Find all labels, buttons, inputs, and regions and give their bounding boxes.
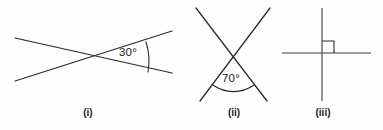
figure-i-angle-label: 30° — [119, 46, 137, 58]
figure-ii-line-down-right — [196, 8, 267, 101]
figure-i-group: 30° (i) — [15, 31, 172, 118]
figure-ii-caption: (ii) — [228, 107, 240, 118]
figure-i-caption: (i) — [83, 107, 92, 118]
geometry-figure-sheet: 30° (i) 70° (ii) (iii) — [0, 0, 383, 130]
figures-canvas: 30° (i) 70° (ii) (iii) — [0, 0, 383, 130]
figure-ii-angle-arc-icon — [213, 85, 254, 92]
figure-ii-angle-label: 70° — [222, 72, 240, 84]
figure-ii-group: 70° (ii) — [196, 8, 270, 118]
figure-ii-line-down-left — [200, 8, 270, 101]
figure-iii-right-angle-square-icon — [322, 41, 334, 53]
figure-iii-caption: (iii) — [316, 107, 331, 118]
figure-iii-group: (iii) — [282, 8, 371, 118]
